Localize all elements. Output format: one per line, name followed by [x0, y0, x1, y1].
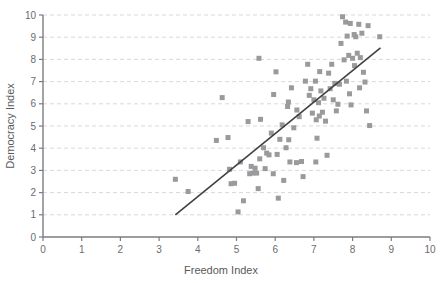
chart-background — [0, 0, 442, 283]
data-point — [246, 119, 251, 124]
data-point — [307, 93, 312, 98]
data-point — [277, 137, 282, 142]
x-axis-title: Freedom Index — [184, 264, 258, 276]
data-point — [301, 174, 306, 179]
data-point — [356, 22, 361, 27]
data-point — [271, 92, 276, 97]
data-point — [261, 145, 266, 150]
y-axis-tick-label: 7 — [30, 76, 36, 87]
data-point — [263, 166, 268, 171]
data-point — [285, 104, 290, 109]
data-point — [329, 62, 334, 67]
data-point — [303, 79, 308, 84]
data-point — [340, 14, 345, 19]
data-point — [214, 138, 219, 143]
x-axis-tick-label: 1 — [79, 244, 85, 255]
data-point — [271, 171, 276, 176]
data-point — [258, 117, 263, 122]
data-point — [326, 71, 331, 76]
data-point — [317, 69, 322, 74]
data-point — [357, 85, 362, 90]
data-point — [257, 156, 262, 161]
data-point — [338, 41, 343, 46]
data-point — [321, 96, 326, 101]
data-point — [355, 51, 360, 56]
data-point — [308, 86, 313, 91]
data-point — [256, 186, 261, 191]
y-axis-tick-label: 3 — [30, 165, 36, 176]
data-point — [366, 23, 371, 28]
data-point — [316, 100, 321, 105]
x-axis-tick-label: 7 — [311, 244, 317, 255]
x-axis-tick-label: 6 — [272, 244, 278, 255]
data-point — [314, 136, 319, 141]
data-point — [294, 108, 299, 113]
data-point — [291, 125, 296, 130]
data-point — [299, 159, 304, 164]
y-axis-tick-label: 10 — [25, 10, 37, 21]
x-axis-tick-label: 3 — [156, 244, 162, 255]
data-point — [286, 100, 291, 105]
data-point — [186, 189, 191, 194]
data-point — [377, 34, 382, 39]
data-point — [236, 209, 241, 214]
y-axis-tick-label: 2 — [30, 187, 36, 198]
data-point — [348, 21, 353, 26]
y-axis-tick-label: 6 — [30, 98, 36, 109]
data-point — [320, 110, 325, 115]
data-point — [335, 102, 340, 107]
data-point — [313, 159, 318, 164]
data-point — [173, 177, 178, 182]
chart-canvas: 012345678910 012345678910 Freedom Index … — [0, 0, 442, 283]
data-point — [232, 181, 237, 186]
data-point — [267, 152, 272, 157]
data-point — [343, 20, 348, 25]
data-point — [294, 160, 299, 165]
y-axis-title: Democracy Index — [4, 83, 16, 169]
x-axis-tick-label: 9 — [389, 244, 395, 255]
y-axis-tick-label: 5 — [30, 121, 36, 132]
data-point — [253, 166, 258, 171]
x-axis-tick-label: 0 — [40, 244, 46, 255]
x-axis-tick-label: 2 — [118, 244, 124, 255]
x-axis-tick-label: 10 — [424, 244, 436, 255]
data-point — [367, 123, 372, 128]
data-point — [323, 119, 328, 124]
y-axis-tick-label: 4 — [30, 143, 36, 154]
data-point — [254, 171, 259, 176]
y-axis-tick-label: 9 — [30, 32, 36, 43]
data-point — [305, 62, 310, 67]
data-point — [364, 108, 369, 113]
data-point — [275, 152, 280, 157]
data-point — [361, 70, 366, 75]
y-axis-tick-label: 1 — [30, 209, 36, 220]
data-point — [334, 108, 339, 113]
x-axis-tick-label: 4 — [195, 244, 201, 255]
data-point — [241, 198, 246, 203]
data-point — [284, 145, 289, 150]
data-point — [273, 69, 278, 74]
data-point — [353, 34, 358, 39]
data-point — [358, 55, 363, 60]
data-point — [310, 111, 315, 116]
x-axis-tick-label: 5 — [234, 244, 240, 255]
scatter-chart: 012345678910 012345678910 Freedom Index … — [0, 0, 442, 283]
y-axis-tick-label: 8 — [30, 54, 36, 65]
data-point — [256, 56, 261, 61]
data-point — [362, 80, 367, 85]
data-point — [289, 85, 294, 90]
data-point — [359, 31, 364, 36]
data-point — [286, 137, 291, 142]
data-point — [313, 79, 318, 84]
data-point — [276, 196, 281, 201]
data-point — [350, 56, 355, 61]
data-point — [342, 57, 347, 62]
data-point — [281, 178, 286, 183]
data-point — [345, 34, 350, 39]
data-point — [344, 79, 349, 84]
data-point — [347, 91, 352, 96]
data-point — [287, 159, 292, 164]
data-point — [325, 153, 330, 158]
data-point — [220, 95, 225, 100]
data-point — [349, 102, 354, 107]
